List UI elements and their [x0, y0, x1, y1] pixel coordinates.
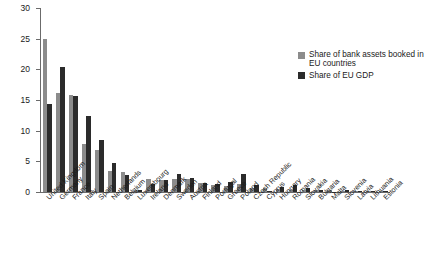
x-axis-category-labels: United KingdomGermanyFranceItalySpainNet… [41, 196, 390, 268]
y-axis-tick-label: 5 [25, 157, 30, 166]
bar-group [351, 8, 364, 192]
bar-group [377, 8, 390, 192]
y-axis-tick-labels: 051015202530 [0, 8, 36, 193]
y-axis-tick [36, 69, 40, 70]
y-axis-tick-label: 0 [25, 188, 30, 197]
bar-group [261, 8, 274, 192]
bar-group [338, 8, 351, 192]
y-axis-tick [36, 192, 40, 193]
y-axis-tick-label: 25 [21, 35, 30, 44]
legend-label: Share of EU GDP [309, 71, 374, 80]
bar-group [209, 8, 222, 192]
legend-swatch [298, 72, 305, 79]
chart-legend: Share of bank assets booked in EU countr… [298, 50, 428, 82]
bar-group [196, 8, 209, 192]
bar-group [325, 8, 338, 192]
bar-group [364, 8, 377, 192]
y-axis-tick-label: 15 [21, 96, 30, 105]
y-axis-tick-label: 20 [21, 65, 30, 74]
bar-group [144, 8, 157, 192]
bar-group [157, 8, 170, 192]
bar-group [312, 8, 325, 192]
bar-group [170, 8, 183, 192]
bar [47, 104, 51, 192]
bar-group [299, 8, 312, 192]
bar-group [106, 8, 119, 192]
legend-swatch [298, 52, 305, 59]
bar-group [119, 8, 132, 192]
bar-group [93, 8, 106, 192]
bar [99, 140, 103, 192]
y-axis-tick [36, 131, 40, 132]
y-axis-tick [36, 100, 40, 101]
bar-chart: 051015202530 United KingdomGermanyFrance… [0, 0, 431, 269]
bar-group [248, 8, 261, 192]
y-axis-tick [36, 161, 40, 162]
bar [60, 67, 64, 192]
y-axis-tick [36, 8, 40, 9]
legend-label: Share of bank assets booked in EU countr… [309, 50, 428, 69]
y-axis-tick [36, 39, 40, 40]
bar-group [41, 8, 54, 192]
plot-area [40, 8, 390, 193]
bar-series-container [41, 8, 390, 192]
legend-item: Share of bank assets booked in EU countr… [298, 50, 428, 69]
bar-group [183, 8, 196, 192]
legend-item: Share of EU GDP [298, 71, 428, 80]
bar-group [54, 8, 67, 192]
bar-group [131, 8, 144, 192]
bar-group [235, 8, 248, 192]
y-axis-tick-label: 30 [21, 4, 30, 13]
bar-group [222, 8, 235, 192]
y-axis-tick-label: 10 [21, 127, 30, 136]
